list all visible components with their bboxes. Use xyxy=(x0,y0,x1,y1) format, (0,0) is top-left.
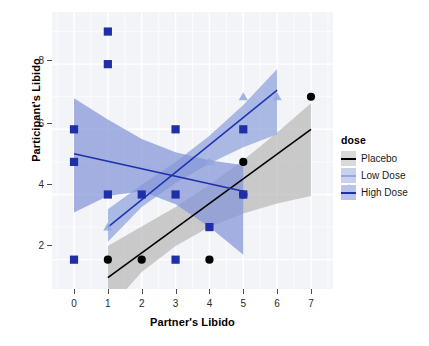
x-axis-title: Partner's Libido xyxy=(52,316,333,328)
x-tick-mark-1 xyxy=(108,289,109,294)
legend-item-low-dose[interactable]: Low Dose xyxy=(341,167,427,184)
legend-label-high-dose: High Dose xyxy=(361,187,408,198)
legend-item-high-dose[interactable]: High Dose xyxy=(341,184,427,201)
legend-title: dose xyxy=(341,134,427,146)
x-tick-label-7: 7 xyxy=(301,298,321,309)
circle-icon xyxy=(341,151,356,166)
x-tick-mark-7 xyxy=(311,289,312,294)
x-tick-mark-0 xyxy=(74,289,75,294)
triangle-icon xyxy=(341,168,356,183)
square-icon xyxy=(341,185,356,200)
legend: dose Placebo Low Dose High Dose xyxy=(341,134,427,201)
legend-item-placebo[interactable]: Placebo xyxy=(341,150,427,167)
chart-screenshot: 8 6 4 2 01234567 Participant's Libido Pa… xyxy=(0,0,429,346)
x-tick-label-1: 1 xyxy=(98,298,118,309)
legend-label-low-dose: Low Dose xyxy=(361,170,405,181)
x-tick-label-4: 4 xyxy=(199,298,219,309)
x-tick-label-0: 0 xyxy=(64,298,84,309)
x-tick-mark-6 xyxy=(277,289,278,294)
x-tick-label-5: 5 xyxy=(233,298,253,309)
y-axis-title: Participant's Libido xyxy=(30,30,42,190)
x-tick-label-2: 2 xyxy=(132,298,152,309)
x-tick-mark-2 xyxy=(142,289,143,294)
x-tick-label-3: 3 xyxy=(166,298,186,309)
x-tick-mark-5 xyxy=(243,289,244,294)
x-tick-mark-3 xyxy=(176,289,177,294)
x-tick-label-6: 6 xyxy=(267,298,287,309)
legend-label-placebo: Placebo xyxy=(361,153,397,164)
x-tick-mark-4 xyxy=(209,289,210,294)
